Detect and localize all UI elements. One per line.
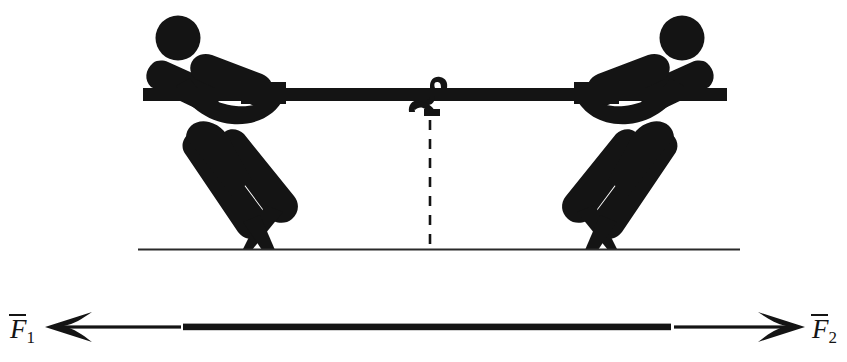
- puller-left: [146, 16, 298, 251]
- puller-right: [562, 16, 714, 251]
- force-shaft-thick: [183, 324, 671, 331]
- force-label-f1-symbol: F: [10, 316, 27, 343]
- force-label-f2: F2: [812, 316, 837, 346]
- physics-figure: F1 F2: [0, 0, 847, 362]
- head-left: [156, 16, 201, 61]
- figure-canvas: [0, 0, 847, 362]
- head-right: [660, 16, 705, 61]
- force-label-f2-subscript: 2: [829, 328, 838, 347]
- force-shaft-thin-left: [60, 325, 181, 328]
- force-axis: [45, 312, 805, 342]
- force-label-f1-subscript: 1: [27, 328, 36, 347]
- force-shaft-thin-right: [674, 325, 790, 328]
- force-label-f2-symbol: F: [812, 316, 829, 343]
- force-label-f1: F1: [10, 316, 35, 346]
